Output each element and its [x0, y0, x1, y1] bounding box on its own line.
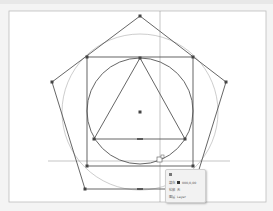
- node-handle[interactable]: [192, 56, 195, 59]
- node-handle[interactable]: [184, 138, 187, 141]
- fill-swatch-icon: [177, 181, 180, 184]
- tooltip-label: 图层: [169, 194, 175, 199]
- node-handle[interactable]: [192, 165, 195, 168]
- drawing-canvas[interactable]: [0, 0, 273, 211]
- tooltip-label: 轮廓: [169, 187, 175, 192]
- tooltip-row-fill: 填充 000,0,00: [169, 180, 196, 185]
- center-point[interactable]: [139, 111, 142, 114]
- tooltip-value: Layer: [177, 195, 186, 199]
- midpoint-marker: [137, 138, 143, 140]
- page-border: [9, 11, 266, 202]
- tooltip-row-outline: 轮廓 无: [169, 187, 180, 192]
- tooltip-value: 000,0,00: [182, 181, 196, 185]
- midpoint-marker: [137, 188, 143, 190]
- tooltip-value: 无: [177, 187, 180, 192]
- tooltip-label: 填充: [169, 180, 175, 185]
- node-handle[interactable]: [86, 165, 89, 168]
- node-handle[interactable]: [225, 81, 228, 84]
- node-handle[interactable]: [139, 15, 142, 18]
- node-handle[interactable]: [51, 81, 54, 84]
- node-handle[interactable]: [84, 188, 87, 191]
- tooltip-row-layer: 图层 Layer: [169, 194, 186, 199]
- object-info-tooltip: 填充 000,0,00 轮廓 无 图层 Layer: [165, 169, 206, 203]
- node-handle[interactable]: [93, 138, 96, 141]
- object-type-icon: [169, 173, 172, 176]
- node-handle[interactable]: [139, 57, 142, 60]
- node-handle[interactable]: [86, 56, 89, 59]
